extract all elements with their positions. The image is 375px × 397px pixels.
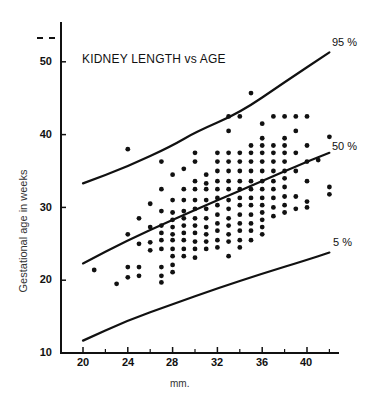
data-point (237, 159, 242, 164)
data-point (193, 150, 198, 155)
data-point (137, 265, 142, 270)
data-point (204, 206, 209, 211)
x-tick-label-28: 28 (160, 356, 184, 368)
data-point (260, 169, 265, 174)
data-point (282, 114, 287, 119)
data-point (260, 196, 265, 201)
data-point (193, 198, 198, 203)
data-point (282, 143, 287, 148)
data-point (92, 268, 97, 273)
data-point (282, 203, 287, 208)
data-point (215, 169, 220, 174)
y-tick-label-20: 20 (32, 273, 52, 285)
data-point (237, 228, 242, 233)
data-point (237, 212, 242, 217)
data-point (237, 150, 242, 155)
data-point (249, 143, 254, 148)
data-point (260, 179, 265, 184)
data-point (170, 238, 175, 243)
data-point (260, 217, 265, 222)
data-point (170, 210, 175, 215)
x-tick-label-24: 24 (116, 356, 140, 368)
curve-label-50: 50 % (332, 140, 357, 152)
data-point (260, 150, 265, 155)
data-point (159, 209, 164, 214)
data-point (237, 196, 242, 201)
data-point (159, 187, 164, 192)
data-point (215, 159, 220, 164)
data-point (170, 254, 175, 259)
data-point (226, 232, 231, 237)
data-point (271, 143, 276, 148)
data-point (260, 159, 265, 164)
data-point (181, 230, 186, 235)
data-point (293, 129, 298, 134)
data-point (170, 270, 175, 275)
data-point (260, 121, 265, 126)
data-point (249, 179, 254, 184)
data-point (226, 239, 231, 244)
x-tick-label-32: 32 (205, 356, 229, 368)
data-point (204, 246, 209, 251)
data-point (215, 212, 220, 217)
data-point (237, 114, 242, 119)
data-point (181, 166, 186, 171)
data-point (193, 179, 198, 184)
data-point (193, 216, 198, 221)
data-point (249, 228, 254, 233)
data-point (226, 198, 231, 203)
percentile-curve-5 (83, 253, 329, 341)
data-point (293, 114, 298, 119)
data-point (282, 169, 287, 174)
percentile-curve-95 (83, 52, 329, 183)
data-point (260, 232, 265, 237)
data-point (282, 194, 287, 199)
data-point (327, 185, 332, 190)
data-point (204, 198, 209, 203)
data-point (181, 246, 186, 251)
data-point (305, 114, 310, 119)
data-point (215, 245, 220, 250)
data-point (215, 150, 220, 155)
data-point (282, 185, 287, 190)
data-point (181, 209, 186, 214)
data-point (148, 240, 153, 245)
data-point (215, 228, 220, 233)
x-tick-label-20: 20 (71, 356, 95, 368)
data-point (159, 273, 164, 278)
data-point (125, 147, 130, 152)
data-point (237, 179, 242, 184)
data-point (159, 223, 164, 228)
data-point (249, 169, 254, 174)
data-point (204, 187, 209, 192)
data-point (226, 179, 231, 184)
data-point (305, 205, 310, 210)
y-axis-label: Gestational age in weeks (17, 156, 29, 306)
data-point (327, 134, 332, 139)
data-point (215, 187, 220, 192)
data-point (226, 129, 231, 134)
curve-label-5: 5 % (333, 236, 352, 248)
data-point (237, 238, 242, 243)
data-point (204, 225, 209, 230)
data-point (193, 206, 198, 211)
data-point (159, 230, 164, 235)
data-point (170, 232, 175, 237)
data-point (305, 159, 310, 164)
data-point (293, 150, 298, 155)
data-point (249, 221, 254, 226)
data-point (137, 241, 142, 246)
data-point (249, 203, 254, 208)
data-point (249, 187, 254, 192)
data-point (193, 223, 198, 228)
data-point (293, 206, 298, 211)
data-point (260, 203, 265, 208)
data-point (181, 198, 186, 203)
data-point (260, 225, 265, 230)
data-point (293, 169, 298, 174)
data-point (293, 194, 298, 199)
data-point (170, 198, 175, 203)
data-point (249, 159, 254, 164)
data-point (282, 176, 287, 181)
data-point (282, 210, 287, 215)
